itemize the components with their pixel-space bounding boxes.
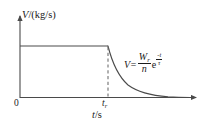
tr-subscript: r bbox=[105, 102, 108, 109]
x-axis-label: t/s bbox=[92, 110, 102, 121]
x-axis-label-unit: /s bbox=[95, 109, 102, 120]
x-tick-label-tr: tr bbox=[102, 99, 107, 109]
formula-denominator: n bbox=[138, 64, 151, 75]
exponential-decay-figure: V/(kg/s) t/s 0 tr V=Wrne-tτ bbox=[0, 0, 211, 128]
y-axis-label-unit: /(kg/s) bbox=[28, 9, 55, 20]
formula-exponent-denominator: τ bbox=[156, 60, 162, 67]
decay-formula-annotation: V=Wrne-tτ bbox=[124, 52, 162, 75]
formula-fraction: Wrn bbox=[138, 52, 151, 75]
formula-numerator-subscript: r bbox=[147, 56, 150, 63]
origin-label: 0 bbox=[14, 99, 19, 109]
y-axis-label: V/(kg/s) bbox=[22, 10, 56, 21]
formula-lhs: V= bbox=[124, 59, 137, 70]
formula-exponent: -tτ bbox=[156, 52, 162, 66]
formula-numerator-base: W bbox=[139, 51, 147, 62]
